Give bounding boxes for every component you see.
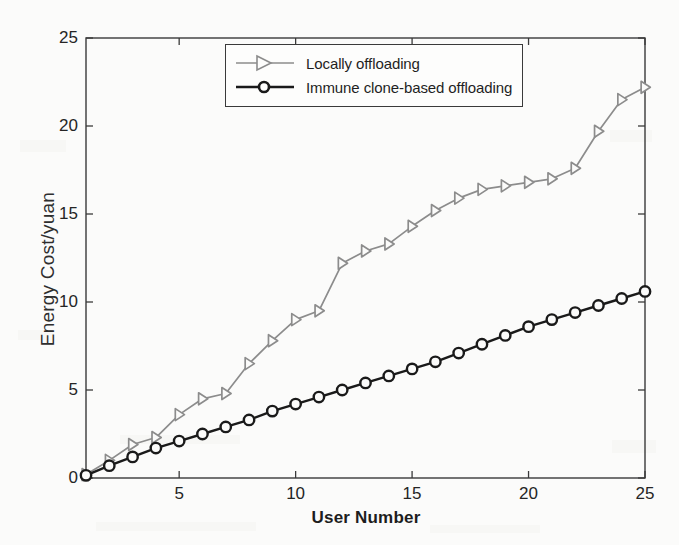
x-tick-label: 15 — [382, 484, 442, 504]
x-axis-tick-labels: 510152025 — [0, 484, 679, 510]
x-axis-title: User Number — [86, 508, 646, 528]
legend-item-locally-offloading: Locally offloading — [234, 51, 512, 75]
chart-legend: Locally offloading Immune clone-based of… — [225, 44, 523, 107]
chart-figure: 0510152025 510152025 Energy Cost/yuan Us… — [0, 0, 679, 545]
y-tick-label: 20 — [34, 116, 78, 136]
legend-swatch-circle-icon — [234, 77, 296, 97]
x-tick-label: 10 — [266, 484, 326, 504]
x-tick-label: 20 — [499, 484, 559, 504]
series-1 — [82, 81, 650, 480]
x-tick-label: 5 — [149, 484, 209, 504]
legend-label: Locally offloading — [306, 55, 420, 72]
x-tick-label: 25 — [615, 484, 675, 504]
series-2 — [81, 286, 650, 480]
y-axis-title: Energy Cost/yuan — [37, 139, 59, 399]
legend-item-immune-clone-based-offloading: Immune clone-based offloading — [234, 75, 512, 99]
y-tick-label: 25 — [34, 28, 78, 48]
legend-swatch-triangle-right-icon — [234, 53, 296, 73]
legend-label: Immune clone-based offloading — [306, 79, 512, 96]
